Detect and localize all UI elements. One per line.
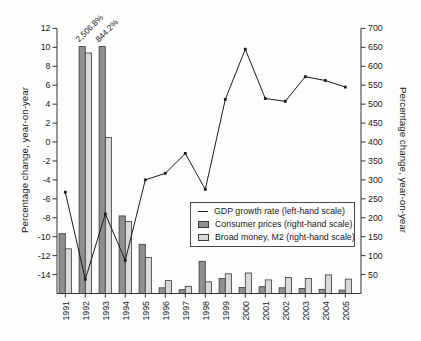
left-tick-label-10: 10 — [41, 42, 51, 52]
left-tick-label-6: 6 — [46, 80, 51, 90]
left-tick-label--6: -6 — [43, 194, 51, 204]
bar-broad-money-1992 — [85, 53, 91, 294]
x-tick-label-1998: 1998 — [201, 301, 211, 321]
legend-item-consumer-prices: Consumer prices (right-hand scale) — [198, 220, 354, 229]
left-tick-label-12: 12 — [41, 23, 51, 33]
x-tick-label-2001: 2001 — [261, 301, 271, 321]
left-axis-title: Percentage change, year-on-year — [19, 86, 30, 233]
bar-consumer-prices-1995 — [139, 244, 145, 293]
gdp-point-1992 — [84, 278, 87, 281]
bar-consumer-prices-1996 — [159, 288, 165, 294]
right-tick-label-550: 550 — [368, 80, 383, 90]
right-tick-label-100: 100 — [368, 251, 383, 261]
right-tick-label-50: 50 — [368, 270, 378, 280]
legend-label-consumer-prices: Consumer prices (right-hand scale) — [215, 220, 352, 229]
gdp-point-1991 — [64, 191, 67, 194]
bar-consumer-prices-1994 — [119, 216, 125, 294]
bar-consumer-prices-2000 — [239, 287, 245, 293]
bar-broad-money-2005 — [345, 279, 351, 293]
left-tick-label-4: 4 — [46, 99, 51, 109]
chart-svg: 121086420-2-4-6-8-10-12-1470065060055050… — [0, 0, 421, 341]
bar-broad-money-1991 — [65, 249, 71, 294]
bar-consumer-prices-1991 — [59, 234, 65, 294]
bar-broad-money-1995 — [145, 258, 151, 294]
x-tick-label-1993: 1993 — [101, 301, 111, 321]
right-tick-label-150: 150 — [368, 232, 383, 242]
right-tick-label-200: 200 — [368, 213, 383, 223]
x-tick-label-1995: 1995 — [141, 301, 151, 321]
left-tick-label--4: -4 — [43, 175, 51, 185]
legend-item-broad-money: Broad money, M2 (right-hand scale) — [198, 233, 354, 242]
bar-consumer-prices-1998 — [199, 261, 205, 293]
x-tick-label-2004: 2004 — [321, 301, 331, 321]
bar-consumer-prices-1993 — [99, 47, 105, 294]
x-tick-label-1997: 1997 — [181, 301, 191, 321]
bar-consumer-prices-1999 — [219, 278, 225, 293]
gdp-point-1996 — [164, 172, 167, 175]
x-tick-label-1991: 1991 — [61, 301, 71, 321]
left-tick-label-8: 8 — [46, 61, 51, 71]
gdp-point-1994 — [124, 259, 127, 262]
x-tick-label-1992: 1992 — [81, 301, 91, 321]
right-tick-label-450: 450 — [368, 118, 383, 128]
left-tick-label--12: -12 — [38, 251, 51, 261]
right-tick-label-400: 400 — [368, 137, 383, 147]
bar-broad-money-2002 — [285, 278, 291, 294]
x-tick-label-2005: 2005 — [341, 301, 351, 321]
left-tick-label-2: 2 — [46, 118, 51, 128]
x-tick-label-2000: 2000 — [241, 301, 251, 321]
x-tick-label-2002: 2002 — [281, 301, 291, 321]
bar-consumer-prices-2005 — [339, 290, 345, 293]
x-tick-label-2003: 2003 — [301, 301, 311, 321]
bar-broad-money-2003 — [305, 278, 311, 293]
x-tick-label-1996: 1996 — [161, 301, 171, 321]
right-tick-label-350: 350 — [368, 156, 383, 166]
right-tick-label-600: 600 — [368, 61, 383, 71]
right-tick-label-650: 650 — [368, 42, 383, 52]
bar-broad-money-2000 — [245, 273, 251, 294]
gdp-point-2001 — [264, 97, 267, 100]
bar-consumer-prices-1997 — [179, 290, 185, 294]
dark-square-marker-icon — [198, 221, 209, 228]
left-tick-label--8: -8 — [43, 213, 51, 223]
gdp-point-2002 — [284, 100, 287, 103]
gdp-point-1993 — [104, 213, 107, 216]
chart-figure: 121086420-2-4-6-8-10-12-1470065060055050… — [0, 0, 421, 341]
right-tick-label-700: 700 — [368, 23, 383, 33]
bar-consumer-prices-2002 — [279, 288, 285, 294]
bar-broad-money-2001 — [265, 280, 271, 294]
bar-broad-money-1996 — [165, 281, 171, 294]
gdp-point-2003 — [304, 75, 307, 78]
gdp-point-2004 — [324, 79, 327, 82]
right-tick-label-500: 500 — [368, 99, 383, 109]
right-axis-title: Percentage change, year-on-year — [398, 87, 409, 234]
bar-consumer-prices-2004 — [319, 289, 325, 293]
legend: GDP growth rate (left-hand scale) Consum… — [190, 202, 355, 247]
left-tick-label-0: 0 — [46, 137, 51, 147]
bar-broad-money-2004 — [325, 275, 331, 294]
gdp-point-1999 — [224, 98, 227, 101]
left-tick-label--2: -2 — [43, 156, 51, 166]
light-square-marker-icon — [198, 234, 209, 241]
bar-broad-money-1998 — [205, 282, 211, 294]
x-tick-label-1994: 1994 — [121, 301, 131, 321]
left-tick-label--14: -14 — [38, 270, 51, 280]
left-tick-label--10: -10 — [38, 232, 51, 242]
x-tick-label-1999: 1999 — [221, 301, 231, 321]
legend-item-gdp: GDP growth rate (left-hand scale) — [198, 207, 354, 216]
gdp-point-1997 — [184, 152, 187, 155]
gdp-point-1998 — [204, 188, 207, 191]
right-tick-label-300: 300 — [368, 175, 383, 185]
legend-label-broad-money: Broad money, M2 (right-hand scale) — [215, 233, 355, 242]
line-marker-icon — [198, 211, 208, 212]
bar-broad-money-1999 — [225, 274, 231, 294]
bar-broad-money-1997 — [185, 286, 191, 293]
gdp-point-1995 — [144, 179, 147, 182]
right-tick-label-250: 250 — [368, 194, 383, 204]
legend-label-gdp: GDP growth rate (left-hand scale) — [214, 207, 345, 216]
bar-consumer-prices-2001 — [259, 287, 265, 294]
gdp-point-2000 — [244, 48, 247, 51]
bar-consumer-prices-2003 — [299, 289, 305, 294]
gdp-point-2005 — [344, 86, 347, 89]
